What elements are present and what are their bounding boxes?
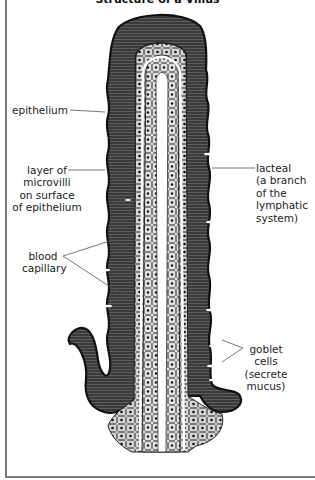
goblet-line-3: (secrete	[243, 368, 289, 380]
microvilli-line-3: on surface	[10, 189, 84, 201]
blood-capillary-line-1: blood	[22, 250, 64, 262]
lacteal-line-3: of the	[256, 187, 315, 199]
goblet-line-1: goblet	[243, 343, 289, 355]
blood-capillary-line-2: capillary	[22, 262, 64, 274]
goblet-line-4: mucus)	[243, 380, 289, 392]
villus-diagram	[0, 0, 315, 480]
label-epithelium: epithelium	[10, 104, 68, 116]
label-blood-capillary: blood capillary	[22, 250, 64, 275]
lacteal-line-2: (a branch	[256, 174, 315, 186]
lacteal-line-5: system)	[256, 212, 315, 224]
microvilli-line-1: layer of	[10, 164, 84, 176]
lacteal-line-4: lymphatic	[256, 199, 315, 211]
goblet-line-2: cells	[243, 355, 289, 367]
lacteal-line-1: lacteal	[256, 162, 315, 174]
microvilli-line-4: of epithelium	[10, 201, 84, 213]
microvilli-line-2: microvilli	[10, 176, 84, 188]
epithelium-text: epithelium	[12, 104, 68, 116]
lacteal-channel	[156, 73, 168, 453]
label-lacteal: lacteal (a branch of the lymphatic syste…	[256, 162, 315, 224]
label-microvilli: layer of microvilli on surface of epithe…	[10, 164, 84, 214]
label-goblet-cells: goblet cells (secrete mucus)	[243, 343, 289, 393]
